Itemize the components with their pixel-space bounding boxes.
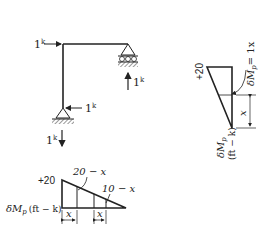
leader-arrow [232, 70, 246, 94]
dim-left-label: x [66, 208, 72, 219]
column-moment-diagram: +20 δMp= 1x x δMp (ft − k) [194, 41, 258, 160]
roller-support-icon [118, 44, 138, 67]
leader-right [106, 194, 110, 203]
load-top-left-value: 1k [34, 38, 46, 51]
moment-triangle [207, 67, 232, 128]
beam-moment-diagram: +20 20 − x 10 − x δMp(ft − k) x x [6, 166, 135, 224]
structural-diagram: 1k 1k 1k 1k +20 δMp= 1x [0, 0, 268, 237]
dim-right-label: x [97, 208, 103, 219]
label-20-minus-x: 20 − x [72, 166, 106, 177]
right-top-value: +20 [194, 63, 205, 80]
reaction-left-horizontal-value: 1k [85, 102, 97, 115]
pin-support-icon [52, 108, 74, 124]
right-axis-units: (ft − k) [227, 127, 237, 160]
reaction-left-vertical-value: 1k [46, 134, 58, 147]
right-dimension-label: x [237, 110, 248, 116]
bottom-top-value: +20 [38, 175, 55, 186]
frame: 1k 1k 1k 1k [34, 38, 145, 147]
label-10-minus-x: 10 − x [102, 183, 135, 194]
bottom-axis-label: δMp(ft − k) [6, 203, 61, 216]
right-equation-label: δMp= 1x [245, 41, 258, 86]
reaction-right-value: 1k [133, 76, 145, 89]
